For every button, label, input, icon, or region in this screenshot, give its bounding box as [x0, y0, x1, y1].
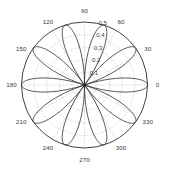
angular-label-330: 330 — [143, 118, 154, 125]
radial-label-0.3: 0.3 — [94, 45, 103, 51]
angular-label-120: 120 — [43, 18, 54, 25]
angular-label-270: 270 — [79, 156, 90, 163]
angular-label-240: 240 — [43, 144, 54, 151]
polar-chart: 0306090120150180210240270300330 0.10.20.… — [0, 0, 169, 169]
angular-label-210: 210 — [16, 118, 27, 125]
angular-label-90: 90 — [81, 7, 88, 14]
angular-label-150: 150 — [16, 45, 27, 52]
polar-plot-svg: 0306090120150180210240270300330 0.10.20.… — [0, 0, 169, 169]
radial-label-0.4: 0.4 — [96, 32, 105, 38]
angular-label-0: 0 — [156, 81, 160, 88]
angular-label-180: 180 — [6, 81, 17, 88]
radial-label-0.1: 0.1 — [90, 70, 99, 76]
angular-label-30: 30 — [144, 45, 151, 52]
radial-label-0.2: 0.2 — [92, 57, 101, 63]
radial-label-0.5: 0.5 — [98, 20, 107, 26]
angular-label-60: 60 — [118, 18, 125, 25]
angular-label-300: 300 — [116, 144, 127, 151]
